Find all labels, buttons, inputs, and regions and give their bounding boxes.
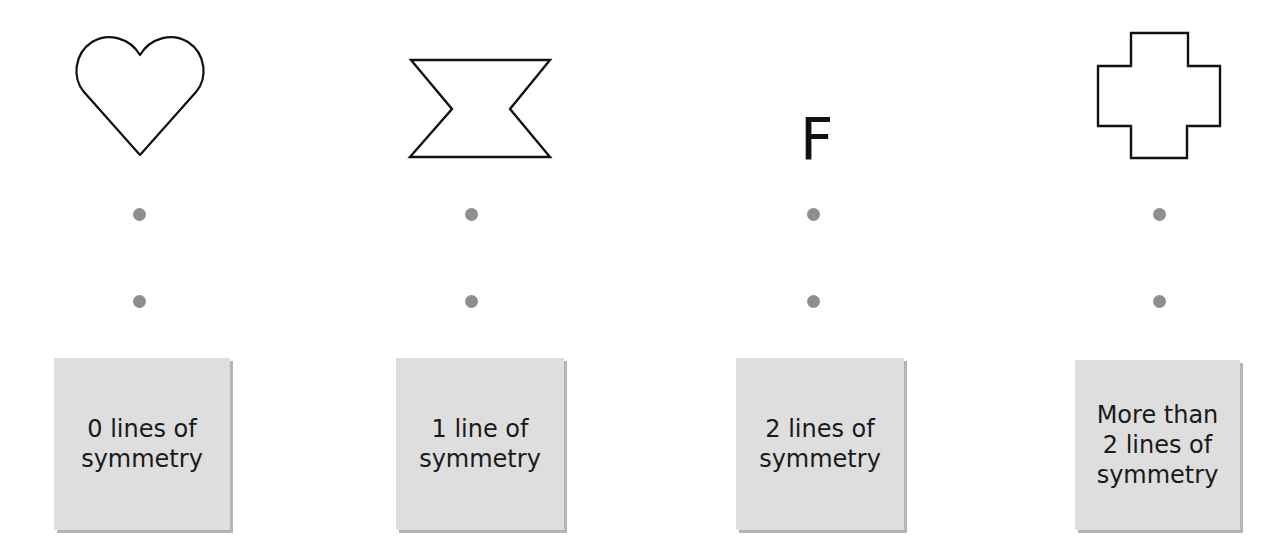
label-line: 1 line of xyxy=(432,414,529,444)
dot xyxy=(465,295,478,308)
label-line: More than xyxy=(1097,400,1219,430)
heart-icon xyxy=(72,30,212,160)
label-line: symmetry xyxy=(1097,460,1219,490)
label-line: symmetry xyxy=(759,444,881,474)
label-box-1-line: 1 line of symmetry xyxy=(396,358,564,530)
dot xyxy=(807,295,820,308)
letter-f: F xyxy=(800,110,833,170)
label-line: 2 lines of xyxy=(765,414,874,444)
label-line: 0 lines of xyxy=(87,414,196,444)
label-line: 2 lines of xyxy=(1103,430,1212,460)
label-box-0-lines: 0 lines of symmetry xyxy=(54,358,230,530)
dot xyxy=(1153,208,1166,221)
dot xyxy=(1153,295,1166,308)
dot xyxy=(133,295,146,308)
label-box-more-than-2-lines: More than 2 lines of symmetry xyxy=(1075,360,1240,530)
label-line: symmetry xyxy=(419,444,541,474)
label-box-2-lines: 2 lines of symmetry xyxy=(736,358,904,530)
dot xyxy=(807,208,820,221)
dot xyxy=(133,208,146,221)
dot xyxy=(465,208,478,221)
label-line: symmetry xyxy=(81,444,203,474)
hourglass-icon xyxy=(405,55,555,162)
cross-icon xyxy=(1095,30,1225,162)
